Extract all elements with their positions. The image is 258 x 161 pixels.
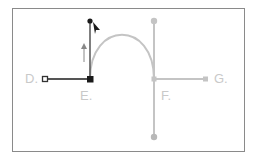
bezier-path-diagram: D. E. F. G. [0,0,258,161]
f-handle-top-dot[interactable] [151,18,157,24]
f-anchor-point[interactable] [152,77,157,82]
f-handle-bottom-dot[interactable] [151,134,157,140]
label-e: E. [80,88,92,103]
g-anchor-point[interactable] [203,77,208,82]
label-f: F. [161,88,171,103]
d-anchor-point[interactable] [43,77,48,82]
e-anchor-point[interactable] [87,76,94,83]
label-d: D. [25,71,38,86]
e-handle-dot[interactable] [87,18,92,23]
label-g: G. [214,71,228,86]
